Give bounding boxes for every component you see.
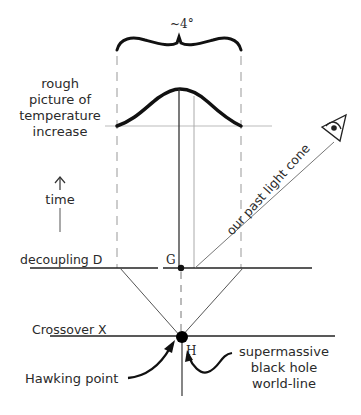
hawking-arrow-icon (128, 348, 170, 378)
hawking-label: Hawking point (25, 371, 118, 386)
temperature-label-3: temperature (19, 108, 101, 123)
angle-brace (117, 37, 241, 50)
black-hole-label-1: supermassive (239, 344, 329, 359)
angle-label: ~4° (170, 17, 194, 31)
crossover-label: Crossover X (32, 322, 107, 337)
point-g-label: G (166, 253, 176, 267)
temperature-label-2: picture of (29, 92, 91, 107)
light-cone-label: our past light cone (223, 140, 313, 238)
past-light-cone-line (195, 142, 334, 268)
black-hole-label-3: world-line (252, 376, 316, 391)
eye-icon (322, 115, 346, 141)
point-g (178, 265, 184, 271)
hawking-point (176, 331, 188, 343)
hawking-arrowhead-icon (164, 340, 175, 353)
time-label: time (45, 192, 74, 207)
temperature-label-4: increase (33, 124, 88, 139)
black-hole-label-2: black hole (251, 360, 317, 375)
cosmology-diagram: ~4° rough picture of temperature increas… (0, 0, 361, 415)
decoupling-label: decoupling D (20, 252, 102, 267)
temperature-label-1: rough (41, 76, 79, 91)
cone-right (181, 268, 243, 337)
cone-left (120, 268, 181, 337)
